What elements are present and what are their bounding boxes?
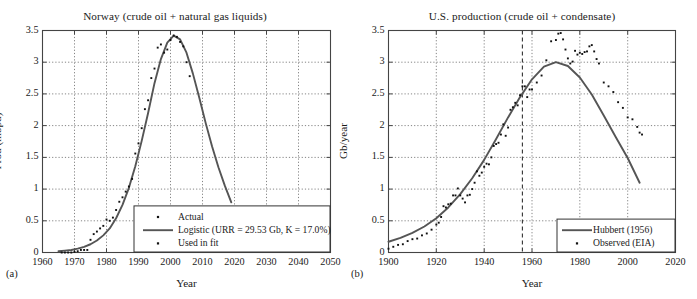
y-tick-label: 2 (7, 119, 39, 130)
legend-item-label: Actual (178, 211, 204, 222)
panel-b-tag: (b) (351, 268, 363, 279)
y-tick-label: 3 (353, 55, 385, 66)
panel-a-x-axis-label: Year (23, 277, 351, 289)
y-tick-label: 1 (7, 182, 39, 193)
panel-b-x-axis-label: Year (369, 277, 696, 289)
panel-a-plot (0, 0, 350, 299)
x-tick-label: 1980 (560, 256, 600, 267)
panel-a-tag: (a) (6, 268, 18, 279)
x-tick-label: 1900 (369, 256, 409, 267)
y-tick-label: 0.5 (353, 214, 385, 225)
x-tick-label: 1960 (512, 256, 552, 267)
y-tick-label: 1 (353, 182, 385, 193)
x-tick-label: 1920 (416, 256, 456, 267)
y-tick-label: 2.5 (7, 87, 39, 98)
y-tick-label: 2 (353, 119, 385, 130)
legend-item-label: Logistic (URR = 29.53 Gb, K = 17.0%) (178, 224, 331, 235)
x-tick-label: 2050 (311, 256, 351, 267)
y-tick-label: 3 (7, 55, 39, 66)
panel-b-plot (347, 0, 697, 299)
panel-a-y-axis-label: Prod (mbpd) (0, 111, 3, 171)
y-tick-label: 0.5 (7, 214, 39, 225)
y-tick-label: 2.5 (353, 87, 385, 98)
panel-a-norway: Norway (crude oil + natural gas liquids)… (0, 0, 350, 299)
y-tick-label: 3.5 (7, 24, 39, 35)
figure-two-panel-oil-production: Norway (crude oil + natural gas liquids)… (0, 0, 697, 299)
legend-item-label: Observed (EIA) (593, 237, 655, 248)
legend-item-label: Hubbert (1956) (593, 224, 652, 235)
x-tick-label: 1940 (464, 256, 504, 267)
x-tick-label: 2020 (656, 256, 696, 267)
x-tick-label: 2000 (608, 256, 648, 267)
y-tick-label: 1.5 (353, 150, 385, 161)
panel-b-y-axis-label: Gb/year (337, 111, 349, 171)
panel-b-us-production: U.S. production (crude oil + condensate)… (347, 0, 697, 299)
y-tick-label: 3.5 (353, 24, 385, 35)
legend-item-label: Used in fit (178, 237, 219, 248)
y-tick-label: 0 (353, 246, 385, 257)
y-tick-label: 0 (7, 246, 39, 257)
y-tick-label: 1.5 (7, 150, 39, 161)
